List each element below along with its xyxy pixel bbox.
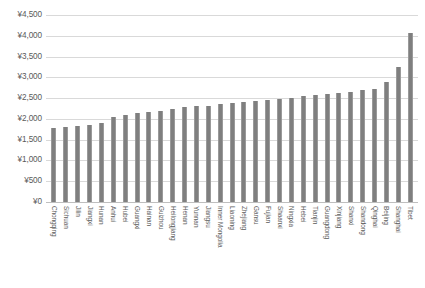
- bar[interactable]: [158, 111, 163, 202]
- x-axis-label-slot: Guangxi: [131, 204, 143, 286]
- bar-chart: ¥0¥500¥1,000¥1,500¥2,000¥2,500¥3,000¥3,5…: [0, 0, 425, 288]
- bar[interactable]: [206, 106, 211, 202]
- bar[interactable]: [135, 113, 140, 202]
- bar-slot: [297, 15, 309, 202]
- bar-slot: [345, 15, 357, 202]
- bar-slot: [238, 15, 250, 202]
- y-axis-tick-label: ¥3,000: [18, 73, 42, 81]
- gridline: [46, 202, 418, 203]
- x-axis-label-slot: Gansu: [250, 204, 262, 286]
- plot-area: [46, 15, 418, 202]
- x-axis-label-slot: Ningxia: [286, 204, 298, 286]
- x-axis-tick-label: Gansu: [253, 206, 259, 225]
- x-axis-label-slot: Qinghai: [369, 204, 381, 286]
- bar-slot: [309, 15, 321, 202]
- bar-slot: [404, 15, 416, 202]
- bar-slot: [202, 15, 214, 202]
- bar[interactable]: [289, 98, 294, 202]
- x-axis-tick-label: Shaanxi: [276, 206, 282, 229]
- x-axis-label-slot: Chongqing: [48, 204, 60, 286]
- x-axis-label-slot: Shanghai: [392, 204, 404, 286]
- bar[interactable]: [182, 107, 187, 202]
- x-axis-tick-label: Anhui: [110, 206, 116, 222]
- bar[interactable]: [63, 127, 68, 202]
- bar[interactable]: [218, 104, 223, 202]
- bar-slot: [262, 15, 274, 202]
- bar-slot: [84, 15, 96, 202]
- x-axis-tick-label: Qinghai: [371, 206, 377, 228]
- x-axis-tick-label: Henan: [181, 206, 187, 225]
- x-axis-tick-label: Heilongjiang: [169, 206, 175, 241]
- bar[interactable]: [396, 67, 401, 202]
- x-axis-tick-label: Shanghai: [395, 206, 401, 233]
- x-axis-label-slot: Guizhou: [155, 204, 167, 286]
- bar[interactable]: [99, 123, 104, 202]
- bar[interactable]: [372, 89, 377, 202]
- x-axis-label-slot: Anhui: [107, 204, 119, 286]
- bar-slot: [48, 15, 60, 202]
- bar[interactable]: [313, 95, 318, 202]
- bar-slot: [131, 15, 143, 202]
- x-axis-label-slot: Heilongjiang: [167, 204, 179, 286]
- x-axis-label-slot: Shanxi: [345, 204, 357, 286]
- bar-series: [46, 15, 418, 202]
- bar[interactable]: [123, 115, 128, 202]
- bar-slot: [250, 15, 262, 202]
- bar[interactable]: [253, 101, 258, 202]
- x-axis-label-slot: Hunan: [96, 204, 108, 286]
- x-axis-tick-label: Hainan: [146, 206, 152, 226]
- x-axis-tick-label: Zhejiang: [241, 206, 247, 230]
- bar-slot: [321, 15, 333, 202]
- y-axis-tick-label: ¥0: [33, 198, 42, 206]
- x-axis-label-slot: Shandong: [357, 204, 369, 286]
- bar[interactable]: [408, 33, 413, 202]
- x-axis-label-slot: Tianjin: [309, 204, 321, 286]
- bar[interactable]: [325, 94, 330, 202]
- x-axis-label-slot: Fujian: [262, 204, 274, 286]
- x-axis-label-slot: Inner Mongolia: [214, 204, 226, 286]
- x-axis-label-slot: Yunnan: [191, 204, 203, 286]
- x-axis-label-slot: Henan: [179, 204, 191, 286]
- bar[interactable]: [51, 128, 56, 202]
- bar[interactable]: [230, 103, 235, 202]
- bar[interactable]: [348, 92, 353, 202]
- bar[interactable]: [111, 117, 116, 202]
- bar-slot: [333, 15, 345, 202]
- bar-slot: [60, 15, 72, 202]
- bar[interactable]: [360, 90, 365, 202]
- bar[interactable]: [87, 125, 92, 202]
- bar[interactable]: [301, 96, 306, 202]
- x-axis-labels: ChongqingSichuanJilinJiangxiHunanAnhuiHu…: [46, 204, 418, 286]
- x-axis-label-slot: Hubei: [119, 204, 131, 286]
- bar[interactable]: [277, 99, 282, 202]
- x-axis-tick-label: Hebei: [300, 206, 306, 222]
- x-axis-tick-label: Shandong: [359, 206, 365, 235]
- bar-slot: [167, 15, 179, 202]
- bar[interactable]: [384, 82, 389, 203]
- bar-slot: [119, 15, 131, 202]
- bar-slot: [274, 15, 286, 202]
- x-axis-tick-label: Hunan: [98, 206, 104, 225]
- y-axis-tick-label: ¥3,500: [18, 52, 42, 60]
- x-axis-tick-label: Xinjiang: [336, 206, 342, 228]
- y-axis-labels: ¥0¥500¥1,000¥1,500¥2,000¥2,500¥3,000¥3,5…: [0, 15, 42, 202]
- bar-slot: [357, 15, 369, 202]
- x-axis-tick-label: Guizhou: [158, 206, 164, 229]
- x-axis-label-slot: Jiangsu: [202, 204, 214, 286]
- bar-slot: [143, 15, 155, 202]
- bar[interactable]: [265, 100, 270, 202]
- bar[interactable]: [146, 112, 151, 202]
- x-axis-label-slot: Liaoning: [226, 204, 238, 286]
- x-axis-tick-label: Tianjin: [312, 206, 318, 224]
- bar-slot: [226, 15, 238, 202]
- bar[interactable]: [336, 93, 341, 202]
- bar[interactable]: [170, 109, 175, 203]
- x-axis-tick-label: Liaoning: [229, 206, 235, 230]
- bar[interactable]: [241, 102, 246, 202]
- bar[interactable]: [75, 126, 80, 202]
- y-axis-tick-label: ¥2,500: [18, 94, 42, 102]
- x-axis-tick-label: Chongqing: [51, 206, 57, 236]
- bar[interactable]: [194, 106, 199, 202]
- bar-slot: [286, 15, 298, 202]
- bar-slot: [107, 15, 119, 202]
